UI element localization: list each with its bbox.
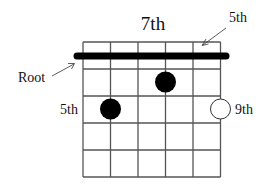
arrow-icon — [202, 28, 226, 46]
top-right-label: 5th — [229, 10, 247, 25]
chord-diagram: 7th 5th Root 5th 9th — [0, 0, 268, 184]
chord-title: 7th — [141, 13, 166, 34]
finger-dot — [155, 72, 176, 93]
left-fret-label: 5th — [60, 102, 78, 117]
right-fret-label: 9th — [235, 102, 253, 117]
finger-dot — [100, 99, 121, 120]
open-dot — [211, 99, 231, 119]
root-label: Root — [18, 70, 45, 85]
arrow-icon — [52, 64, 75, 77]
